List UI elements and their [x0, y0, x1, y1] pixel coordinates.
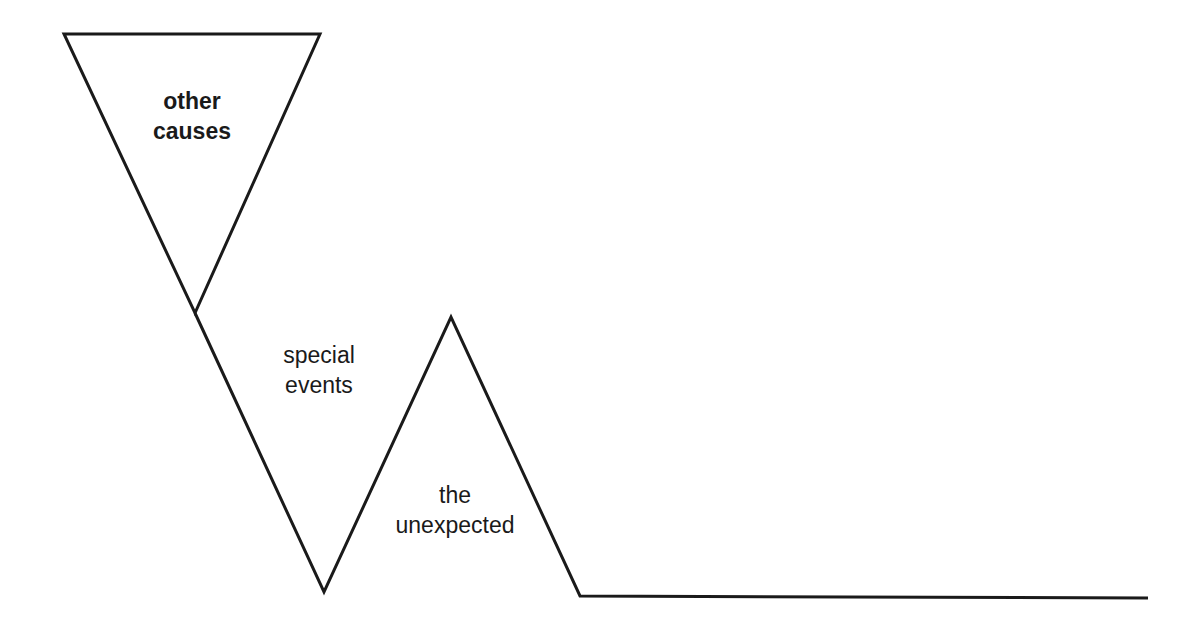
label-other-causes-line1: other	[142, 86, 242, 116]
label-special-events: special events	[264, 340, 374, 400]
label-other-causes-line2: causes	[142, 116, 242, 146]
label-other-causes: other causes	[142, 86, 242, 146]
label-the-unexpected-line2: unexpected	[385, 510, 525, 540]
label-the-unexpected: the unexpected	[385, 480, 525, 540]
other-causes-triangle	[64, 34, 320, 313]
label-special-events-line1: special	[264, 340, 374, 370]
label-the-unexpected-line1: the	[385, 480, 525, 510]
label-special-events-line2: events	[264, 370, 374, 400]
